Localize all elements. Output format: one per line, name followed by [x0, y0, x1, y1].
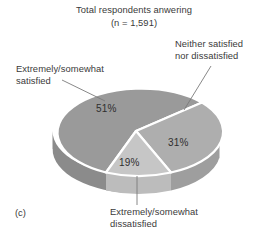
slice-value-satisfied: 51% [96, 103, 117, 114]
callout-dissatisfied-line2: dissatisfied [110, 218, 198, 230]
figure-letter: (c) [15, 207, 26, 218]
callout-satisfied-line2: satisfied [16, 75, 104, 87]
callout-label-satisfied: Extremely/somewhat satisfied [16, 63, 104, 87]
callout-label-dissatisfied: Extremely/somewhat dissatisfied [110, 206, 198, 230]
callout-neither-line2: nor dissatisfied [175, 50, 243, 62]
callout-label-neither: Neither satisfied nor dissatisfied [175, 38, 243, 62]
slice-value-dissatisfied: 19% [119, 157, 140, 168]
callout-satisfied-line1: Extremely/somewhat [16, 63, 104, 75]
slice-value-neither: 31% [168, 137, 189, 148]
callout-neither-line1: Neither satisfied [175, 38, 243, 50]
pie-chart-figure: Total respondents anwering (n = 1,591) [0, 0, 268, 247]
callout-dissatisfied-line1: Extremely/somewhat [110, 206, 198, 218]
